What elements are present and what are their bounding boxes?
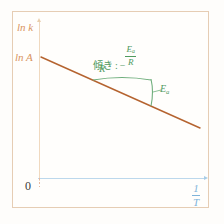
y-axis-label: ln k — [17, 22, 33, 33]
slope-colon: : — [113, 60, 120, 71]
origin-label: 0 — [25, 180, 31, 192]
slope-fraction: Ea R — [125, 45, 135, 67]
arrhenius-plot-figure: ln k ln A 0 1 T 傾き:− Ea R R Ea — [0, 0, 224, 224]
triangle-rise-segment — [151, 79, 153, 106]
triangle-run-label: R — [99, 64, 105, 74]
plot-canvas — [0, 0, 224, 224]
x-axis-label: 1 T — [192, 183, 200, 208]
triangle-rise-label: Ea — [160, 84, 169, 95]
y-intercept-label: ln A — [15, 52, 33, 63]
slope-denominator-text: R — [128, 57, 134, 67]
x-axis-label-numerator: 1 — [192, 183, 200, 195]
slope-numerator-subscript: a — [132, 48, 135, 54]
slope-fraction-denominator: R — [125, 57, 135, 67]
x-axis-label-denominator: T — [192, 196, 200, 208]
rise-label-subscript: a — [166, 88, 169, 95]
slope-fraction-numerator: Ea — [125, 45, 135, 56]
triangle-run-segment — [93, 78, 151, 81]
